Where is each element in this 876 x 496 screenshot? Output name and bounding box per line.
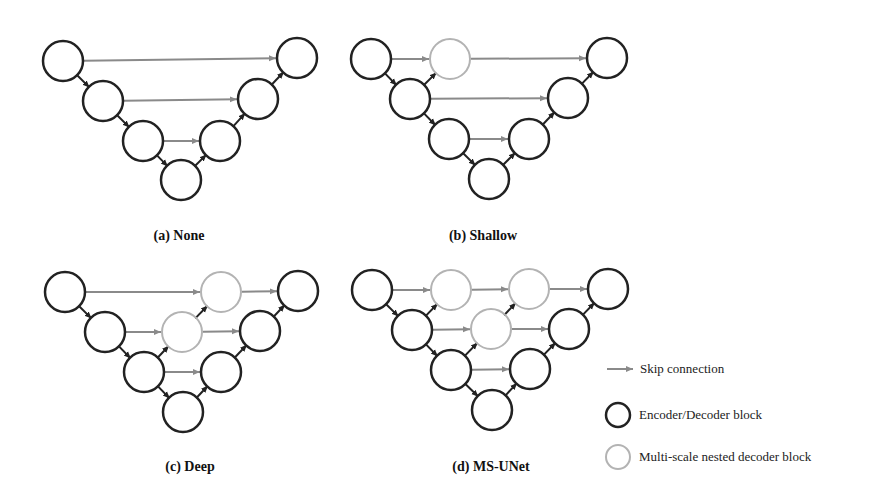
path-arrow-icon [543,343,555,355]
encoder-decoder-block [45,272,85,312]
path-arrow-icon [76,74,88,86]
encoder-decoder-block [587,38,627,78]
path-arrow-icon [194,155,205,166]
path-arrow-icon [157,386,169,398]
legend [606,369,633,469]
encoder-decoder-block [163,392,203,432]
encoder-decoder-block [392,310,432,350]
encoder-decoder-block [278,271,318,311]
skip-connection-arrow-icon [124,99,237,100]
encoder-decoder-block [200,121,240,161]
encoder-decoder-block [352,270,392,310]
legend-block-icon [606,403,630,427]
path-arrow-icon [118,346,130,358]
path-arrow-icon [425,344,437,356]
skip-connection-arrow-icon [431,98,547,99]
path-arrow-icon [156,155,167,166]
path-arrow-icon [273,306,284,318]
encoder-decoder-block [240,311,280,351]
path-arrow-icon [425,304,437,316]
path-arrow-icon [582,303,594,315]
nested-decoder-block [162,312,202,352]
path-arrow-icon [505,384,516,396]
path-arrow-icon [233,114,245,127]
path-arrow-icon [116,114,128,126]
encoder-decoder-block [124,352,164,392]
encoder-decoder-block [123,121,163,161]
path-arrow-icon [581,72,593,84]
diagram-c [45,271,318,432]
encoder-decoder-block [429,119,469,159]
legend-skip-label: Skip connection [640,361,724,377]
path-arrow-icon [462,152,474,164]
encoder-decoder-block [588,269,628,309]
encoder-decoder-block [509,119,549,159]
encoder-decoder-block [469,159,509,199]
path-arrow-icon [385,303,397,315]
caption-a: (a) None [154,228,205,244]
encoder-decoder-block [43,41,83,81]
caption-d: (d) MS-UNet [452,459,529,475]
legend-nested-block-icon [606,445,630,469]
diagram-d [352,269,628,430]
diagram-b [351,38,627,199]
path-arrow-icon [465,383,478,396]
encoder-decoder-block [161,160,201,200]
legend-nested-label: Multi-scale nested decoder block [639,449,811,465]
skip-connection-arrow-icon [471,58,586,59]
legend-block-label: Encoder/Decoder block [639,407,762,423]
nested-decoder-block [430,39,470,79]
path-arrow-icon [502,153,514,165]
path-arrow-icon [542,112,554,125]
encoder-decoder-block [390,79,430,119]
path-arrow-icon [504,304,515,316]
diagram-a [43,38,317,200]
path-arrow-icon [423,113,435,125]
caption-b: (b) Shallow [449,228,517,244]
path-arrow-icon [271,72,283,85]
nested-decoder-block [431,270,471,310]
path-arrow-icon [157,347,168,359]
caption-c: (c) Deep [165,459,214,475]
encoder-decoder-block [83,81,123,121]
encoder-decoder-block [238,79,278,119]
path-arrow-icon [195,306,207,318]
encoder-decoder-block [277,38,317,78]
nested-decoder-block [471,309,511,349]
path-arrow-icon [464,343,477,356]
encoder-decoder-block [548,78,588,118]
encoder-decoder-block [351,39,391,79]
path-arrow-icon [234,345,246,358]
encoder-decoder-block [510,349,550,389]
encoder-decoder-block [201,352,241,392]
encoder-decoder-block [549,309,589,349]
path-arrow-icon [423,73,435,85]
path-arrow-icon [196,387,207,399]
encoder-decoder-block [85,312,125,352]
path-arrow-icon [78,305,90,317]
skip-connection-arrow-icon [84,58,276,60]
nested-decoder-block [509,269,549,309]
encoder-decoder-block [472,390,512,430]
nested-decoder-block [201,272,241,312]
encoder-decoder-block [431,350,471,390]
diagram-layer [43,38,628,432]
path-arrow-icon [384,73,396,85]
